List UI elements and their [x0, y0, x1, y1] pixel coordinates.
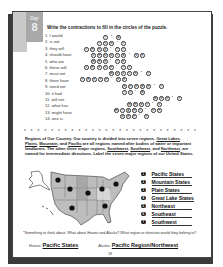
letter-circle: h — [97, 53, 102, 58]
letter-circle: w — [127, 102, 132, 107]
hawaii-label: Hawaii — [29, 244, 40, 248]
region-item: 3Plain States — [141, 186, 194, 194]
letter-circle: a — [139, 102, 144, 107]
letter-circle: e — [132, 114, 137, 119]
divider: * * * * * * * * * * * * * * * * * * * * … — [24, 129, 199, 134]
apostrophe: ' — [145, 107, 146, 112]
region-item: 5Northeast — [141, 202, 194, 210]
apostrophe: ' — [135, 89, 136, 94]
letter-circle: h — [90, 47, 95, 52]
apostrophe: ' — [111, 34, 112, 39]
apostrophe: ' — [152, 101, 153, 106]
region-number-badge: 7 — [141, 220, 146, 225]
letter-circle: e — [134, 84, 139, 89]
region-answer: Southeast — [152, 211, 192, 218]
letter-circle: i — [122, 90, 127, 95]
letter-circle: h — [90, 65, 95, 70]
letter-circle: s — [103, 65, 108, 70]
letter-circle: e — [121, 59, 126, 64]
alaska-answer: Pacific Region/Northwest — [112, 242, 178, 248]
clue-item: 14. one is — [45, 116, 72, 122]
region-number-badge: 4 — [141, 196, 146, 201]
letter-circle: o — [103, 59, 108, 64]
instructions: Write the contractions to fill in the ci… — [47, 25, 167, 30]
letter-circle: t — [84, 65, 89, 70]
apostrophe: ' — [141, 70, 142, 75]
letter-circle: n — [122, 84, 127, 89]
region-answer: Great Lake States — [152, 195, 194, 202]
letter-circle: i — [97, 41, 102, 46]
letter-circle: o — [120, 114, 125, 119]
region-answer: Pacific States — [152, 171, 192, 178]
apostrophe: ' — [110, 58, 111, 63]
letter-circle: l — [121, 65, 126, 70]
letter-circle: d — [140, 90, 145, 95]
letter-circle: s — [157, 102, 162, 107]
letter-circle: s — [103, 41, 108, 46]
day-tab-strip — [13, 12, 27, 52]
letter-circle: I — [103, 35, 108, 40]
clue-item: 4. should have — [45, 52, 72, 58]
region-answer: Mountain States — [152, 179, 192, 186]
clue-item: 12. what has — [45, 103, 72, 109]
letter-circle: w — [153, 96, 158, 101]
letter-circle: t — [121, 41, 126, 46]
letter-circle: s — [144, 114, 149, 119]
apostrophe: ' — [172, 95, 173, 100]
apostrophe: ' — [116, 64, 117, 69]
letter-circle: r — [115, 59, 120, 64]
letter-circle: t — [177, 96, 182, 101]
region-answer-list: 1Pacific States2Mountain States3Plain St… — [141, 170, 194, 226]
letter-circle: m — [114, 108, 119, 113]
region-number-badge: 1 — [141, 172, 146, 177]
alaska-label: Alaska — [98, 244, 109, 248]
region-answer: Northeast — [152, 203, 192, 210]
letter-circle: e — [157, 108, 162, 113]
letter-circle: u — [115, 71, 120, 76]
letter-circle: t — [145, 102, 150, 107]
letter-circle: m — [109, 71, 114, 76]
letter-circle: e — [104, 77, 109, 82]
letter-circle: g — [126, 108, 131, 113]
letter-circle: n — [165, 96, 170, 101]
letter-circle: h — [132, 108, 137, 113]
letter-circle: n — [109, 41, 114, 46]
letter-circle: e — [109, 65, 114, 70]
region-number-badge: 3 — [141, 188, 146, 193]
letter-circle: l — [115, 53, 120, 58]
hawaii-answer: Pacific States — [43, 242, 79, 248]
page-number: 18 — [108, 252, 112, 256]
region-answer: Plain States — [152, 187, 192, 194]
regions-paragraph: Regions of Our Country. Our country is d… — [25, 137, 195, 157]
letter-circle: u — [109, 53, 114, 58]
hawaii-alaska-answers: Hawaii: Pacific States Alaska: Pacific R… — [29, 242, 209, 248]
letter-circle: n — [146, 84, 151, 89]
letter-circle: e — [122, 77, 127, 82]
region-item: 1Pacific States — [141, 170, 194, 178]
letter-circle: t — [80, 77, 85, 82]
apostrophe: ' — [110, 46, 111, 51]
letter-circle: v — [116, 77, 121, 82]
apostrophe: ' — [117, 40, 118, 45]
letter-circle: e — [92, 77, 97, 82]
letter-circle: o — [159, 96, 164, 101]
letter-circle: t — [128, 90, 133, 95]
letter-circle: e — [128, 84, 133, 89]
letter-circle: d — [116, 35, 121, 40]
letter-circle: l — [115, 47, 120, 52]
hawaii-shape — [42, 206, 53, 215]
letter-circle: w — [91, 59, 96, 64]
region-number-badge: 2 — [141, 180, 146, 185]
region-item: 6Southeast — [141, 210, 194, 218]
apostrophe: ' — [129, 52, 130, 57]
apostrophe: ' — [139, 113, 140, 118]
letter-circle: t — [84, 47, 89, 52]
letter-circle: n — [133, 71, 138, 76]
letter-circle: n — [126, 114, 131, 119]
letter-circle: t — [127, 71, 132, 76]
letter-circle: h — [97, 59, 102, 64]
region-answer: Southwest — [152, 219, 192, 226]
alaska-shape — [29, 171, 50, 190]
letter-circle: v — [151, 108, 156, 113]
letter-circle: h — [133, 102, 138, 107]
